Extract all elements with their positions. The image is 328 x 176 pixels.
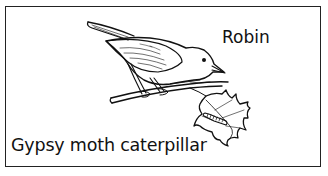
caterpillar-label: Gypsy moth caterpillar bbox=[11, 137, 207, 155]
robin bbox=[88, 22, 226, 97]
robin-label: Robin bbox=[222, 29, 270, 46]
branch bbox=[110, 82, 228, 103]
